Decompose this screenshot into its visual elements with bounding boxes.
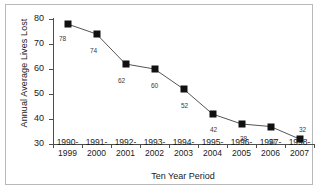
x-axis-title: Ten Year Period	[53, 171, 313, 181]
chart-figure: Annual Average Lives Lost Ten Year Perio…	[0, 0, 324, 191]
data-point-label: 62	[118, 77, 125, 84]
data-point-marker	[238, 121, 245, 128]
y-tick: 40	[49, 119, 53, 120]
data-point-label: 32	[299, 126, 306, 133]
y-axis-title: Annual Average Lives Lost	[19, 8, 29, 138]
data-point-marker	[151, 66, 158, 73]
data-point-marker	[180, 86, 187, 93]
y-tick-label: 80	[34, 13, 44, 23]
data-point-label: 42	[210, 126, 217, 133]
data-point-label: 74	[90, 47, 97, 54]
data-point-marker	[267, 123, 274, 130]
x-tick-label-line: 1998-	[280, 137, 320, 148]
data-point-marker	[209, 111, 216, 118]
y-tick-label: 40	[34, 113, 44, 123]
y-tick-label: 30	[34, 138, 44, 148]
y-tick: 70	[49, 44, 53, 45]
y-tick: 60	[49, 69, 53, 70]
y-tick-label: 60	[34, 63, 44, 73]
y-tick: 80	[49, 19, 53, 20]
data-point-marker	[64, 21, 71, 28]
y-tick-label: 70	[34, 38, 44, 48]
line-series	[53, 19, 314, 144]
data-point-label: 60	[151, 82, 158, 89]
data-point-marker	[122, 61, 129, 68]
plot-area: 807060504030 787462605242383732	[53, 19, 314, 144]
data-point-marker	[93, 31, 100, 38]
x-tick-label-line: 2007	[280, 148, 320, 159]
y-tick: 50	[49, 94, 53, 95]
data-point-label: 78	[59, 35, 66, 42]
x-tick-label: 1998-2007	[280, 137, 320, 158]
figure-border: Annual Average Lives Lost Ten Year Perio…	[5, 4, 313, 185]
y-tick-label: 50	[34, 88, 44, 98]
data-point-label: 52	[181, 102, 188, 109]
